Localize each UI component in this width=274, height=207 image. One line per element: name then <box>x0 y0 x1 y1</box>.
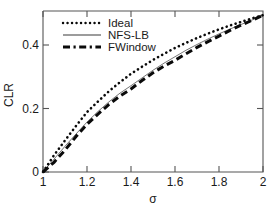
x-tick-label: 1.8 <box>211 175 228 189</box>
y-axis-ticks <box>43 45 263 172</box>
legend-label-ideal: Ideal <box>108 17 133 29</box>
y-tick-label: 0.4 <box>22 38 39 52</box>
chart-plot-area: 1 1.2 1.4 1.6 1.8 2 0 0.2 0.4 σ CLR Idea… <box>0 0 274 207</box>
chart-legend: Ideal NFS-LB FWindow <box>63 17 157 53</box>
series-line-nfs-lb <box>43 15 263 172</box>
y-tick-label: 0 <box>32 165 39 179</box>
series-line-fwindow <box>43 15 263 172</box>
series-line-ideal <box>43 15 263 172</box>
y-tick-label: 0.2 <box>22 102 39 116</box>
legend-label-nfs-lb: NFS-LB <box>108 29 149 41</box>
x-tick-label: 1 <box>40 175 47 189</box>
x-tick-labels: 1 1.2 1.4 1.6 1.8 2 <box>40 175 267 189</box>
y-axis-label: CLR <box>2 83 16 107</box>
chart-figure: 1 1.2 1.4 1.6 1.8 2 0 0.2 0.4 σ CLR Idea… <box>0 0 274 207</box>
x-tick-label: 1.2 <box>79 175 96 189</box>
legend-label-fwindow: FWindow <box>108 41 157 53</box>
x-tick-label: 1.6 <box>167 175 184 189</box>
x-axis-label: σ <box>149 192 157 206</box>
x-tick-label: 1.4 <box>123 175 140 189</box>
y-tick-labels: 0 0.2 0.4 <box>22 38 39 179</box>
x-tick-label: 2 <box>260 175 267 189</box>
